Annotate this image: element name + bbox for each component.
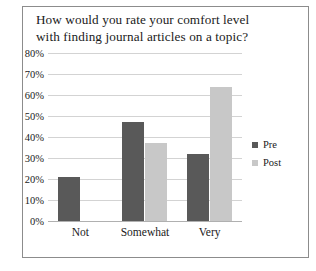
bar-post-somewhat bbox=[145, 143, 167, 221]
y-axis-tick-label: 80% bbox=[10, 48, 44, 59]
chart-legend: PrePost bbox=[252, 140, 281, 175]
chart-title-line-1: How would you rate your comfort level bbox=[36, 12, 266, 29]
y-axis-tick-label: 10% bbox=[10, 195, 44, 206]
bar-group bbox=[113, 53, 178, 221]
bar-pre-not bbox=[58, 177, 80, 221]
x-axis-label-not: Not bbox=[72, 226, 89, 238]
legend-item-label: Pre bbox=[263, 140, 277, 151]
y-axis-tick-label: 0% bbox=[10, 216, 44, 227]
y-axis-tick-label: 40% bbox=[10, 132, 44, 143]
legend-item-label: Post bbox=[263, 158, 281, 169]
legend-swatch-icon bbox=[252, 142, 258, 148]
y-axis-tick-label: 50% bbox=[10, 111, 44, 122]
chart-container: How would you rate your comfort level wi… bbox=[0, 0, 316, 271]
y-axis-labels: 0%10%20%30%40%50%60%70%80% bbox=[8, 53, 44, 221]
gridline bbox=[48, 221, 242, 222]
chart-title: How would you rate your comfort level wi… bbox=[36, 12, 266, 45]
legend-item-post[interactable]: Post bbox=[252, 158, 281, 169]
y-axis-tick-label: 20% bbox=[10, 174, 44, 185]
plot-area bbox=[48, 53, 242, 221]
x-axis-label-very: Very bbox=[199, 226, 221, 238]
legend-swatch-icon bbox=[252, 160, 258, 166]
bar-post-very bbox=[210, 87, 232, 221]
x-axis-labels: NotSomewhatVery bbox=[48, 226, 242, 246]
bar-group bbox=[177, 53, 242, 221]
legend-item-pre[interactable]: Pre bbox=[252, 140, 281, 151]
bar-pre-very bbox=[187, 154, 209, 221]
bar-groups bbox=[48, 53, 242, 221]
x-axis-label-somewhat: Somewhat bbox=[121, 226, 170, 238]
bar-group bbox=[48, 53, 113, 221]
y-axis-tick-label: 30% bbox=[10, 153, 44, 164]
bar-pre-somewhat bbox=[122, 122, 144, 221]
chart-title-line-2: with finding journal articles on a topic… bbox=[36, 29, 266, 46]
y-axis-tick-label: 60% bbox=[10, 90, 44, 101]
y-axis-tick-label: 70% bbox=[10, 69, 44, 80]
